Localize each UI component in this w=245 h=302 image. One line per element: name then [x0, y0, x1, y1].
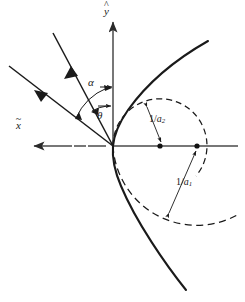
- center-dot-a2: [157, 143, 162, 148]
- angle-label-alpha: α: [88, 77, 94, 88]
- radius-2-subscript: 2: [162, 117, 165, 124]
- ray-group: [9, 33, 113, 146]
- x-axis-label: ~ x: [16, 120, 21, 131]
- inner-ray-arrowhead: [34, 90, 48, 102]
- radius-label-a2: 1/a2: [149, 114, 165, 125]
- angle-arcs: [75, 85, 112, 120]
- radius-1-subscript: 1: [189, 180, 192, 187]
- angle-label-theta: θ: [97, 110, 102, 121]
- figure-canvas: [0, 0, 245, 302]
- y-axis-label: ^ y: [104, 6, 109, 17]
- solid-hyperbola: [113, 41, 208, 290]
- center-dot-a1: [194, 143, 199, 148]
- angle-arc-alpha-arrow-down: [75, 112, 82, 120]
- inner-ray: [9, 66, 113, 146]
- radius-label-a1: 1/a1: [176, 177, 192, 188]
- angle-arc-alpha-arrow-up: [104, 85, 112, 91]
- y-axis-label-accent: ^: [104, 0, 109, 10]
- x-axis-label-accent: ~: [16, 114, 21, 124]
